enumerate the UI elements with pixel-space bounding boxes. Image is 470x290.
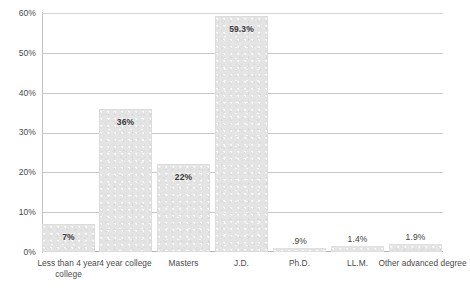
y-axis-tick-label: 40% — [2, 89, 36, 98]
x-axis-label-line: college — [36, 269, 101, 280]
bar-value-label: 1.9% — [390, 233, 441, 242]
bar-slot: 22% — [157, 13, 210, 252]
x-axis-label-jd: J.D. — [209, 258, 274, 269]
x-axis-label-line: 4 year college — [93, 258, 158, 269]
bar-slot: 1.9% — [389, 13, 442, 252]
x-axis-label-line: Ph.D. — [267, 258, 332, 269]
y-axis-tick-label: 20% — [2, 168, 36, 177]
x-axis-label-line: Other advanced degree — [375, 258, 470, 269]
x-axis-label-line: J.D. — [209, 258, 274, 269]
bar-less-than-4-year-college[interactable]: 7% — [42, 224, 95, 252]
bars-layer: 7% 36% 22% 59.3% — [42, 13, 443, 252]
y-axis-tick-label: 50% — [2, 49, 36, 58]
bar-value-label: 59.3% — [216, 25, 267, 34]
x-axis-label-4-year-college: 4 year college — [93, 258, 158, 269]
y-axis-tick-label: 30% — [2, 128, 36, 137]
x-axis-label-phd: Ph.D. — [267, 258, 332, 269]
y-axis-tick-label: 0% — [2, 248, 36, 257]
x-axis-labels: Less than 4 year college 4 year college … — [42, 258, 443, 290]
bar-phd[interactable]: .9% — [273, 248, 326, 252]
bar-value-label: .9% — [274, 237, 325, 246]
bar-slot: .9% — [273, 13, 326, 252]
bar-slot: 36% — [99, 13, 152, 252]
x-axis-label-line: Less than 4 year — [36, 258, 101, 269]
x-axis-label-masters: Masters — [151, 258, 216, 269]
x-axis-label-other-advanced-degree: Other advanced degree — [375, 258, 470, 269]
x-axis-label-line: Masters — [151, 258, 216, 269]
bar-slot: 1.4% — [331, 13, 384, 252]
bar-value-label: 1.4% — [332, 235, 383, 244]
y-axis-tick-label: 60% — [2, 9, 36, 18]
bar-value-label: 7% — [43, 233, 94, 242]
y-axis-tick-label: 10% — [2, 208, 36, 217]
bar-slot: 59.3% — [215, 13, 268, 252]
bar-jd[interactable]: 59.3% — [215, 16, 268, 252]
bar-value-label: 22% — [158, 173, 209, 182]
bar-slot: 7% — [42, 13, 95, 252]
bar-masters[interactable]: 22% — [157, 164, 210, 252]
plot-area: 7% 36% 22% 59.3% — [42, 13, 443, 252]
bar-llm[interactable]: 1.4% — [331, 246, 384, 252]
bar-value-label: 36% — [100, 118, 151, 127]
bar-4-year-college[interactable]: 36% — [99, 109, 152, 252]
y-axis-labels: 60% 50% 40% 30% 20% 10% 0% — [0, 0, 36, 290]
x-axis-label-less-than-4-year-college: Less than 4 year college — [36, 258, 101, 280]
bar-other-advanced-degree[interactable]: 1.9% — [389, 244, 442, 252]
